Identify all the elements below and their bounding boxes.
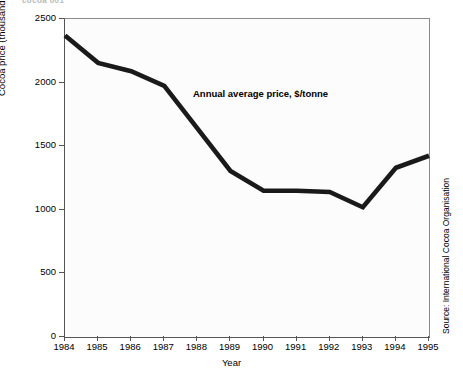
x-tick-label: 1991 bbox=[285, 341, 306, 352]
y-tick-mark bbox=[59, 82, 64, 83]
series-line-chart bbox=[65, 19, 429, 337]
y-tick-label: 1500 bbox=[35, 139, 56, 150]
y-tick-mark bbox=[59, 18, 64, 19]
x-tick-label: 1992 bbox=[318, 341, 339, 352]
y-axis-label: Cocoa price (thousand tonnes) bbox=[0, 0, 7, 96]
clipped-caption-fragment: cocoa 001 bbox=[22, 0, 64, 5]
x-tick-label: 1985 bbox=[87, 341, 108, 352]
x-tick-label: 1989 bbox=[219, 341, 240, 352]
y-tick-label: 2500 bbox=[35, 12, 56, 23]
x-tick-label: 1987 bbox=[153, 341, 174, 352]
x-tick-label: 1993 bbox=[351, 341, 372, 352]
x-tick-label: 1990 bbox=[252, 341, 273, 352]
x-tick-label: 1988 bbox=[186, 341, 207, 352]
y-tick-mark bbox=[59, 209, 64, 210]
x-tick-label: 1994 bbox=[384, 341, 405, 352]
x-tick-label: 1984 bbox=[53, 341, 74, 352]
cocoa-price-chart-figure: cocoa 001 05001000150020002500 198419851… bbox=[0, 0, 463, 386]
x-tick-label: 1995 bbox=[417, 341, 438, 352]
series-annotation: Annual average price, $/tonne bbox=[193, 88, 328, 99]
y-tick-label: 0 bbox=[51, 330, 56, 341]
x-axis-label: Year bbox=[0, 357, 463, 368]
y-tick-label: 500 bbox=[40, 266, 56, 277]
source-note: Source: International Cocoa Organisation bbox=[441, 178, 451, 334]
y-tick-label: 2000 bbox=[35, 76, 56, 87]
y-tick-mark bbox=[59, 145, 64, 146]
plot-area bbox=[64, 18, 430, 338]
y-tick-label: 1000 bbox=[35, 203, 56, 214]
y-tick-mark bbox=[59, 272, 64, 273]
x-tick-label: 1986 bbox=[120, 341, 141, 352]
price-line bbox=[65, 36, 429, 208]
